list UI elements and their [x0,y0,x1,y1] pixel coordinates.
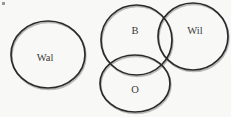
wil-label: Wil [187,25,202,36]
venn-canvas: Wal B Wil O [0,0,231,117]
wil-circle[interactable] [158,3,228,70]
venn-diagram-figure: Wal B Wil O [0,0,231,117]
o-label: O [131,84,139,95]
b-label: B [131,25,138,36]
wal-label: Wal [37,52,54,63]
